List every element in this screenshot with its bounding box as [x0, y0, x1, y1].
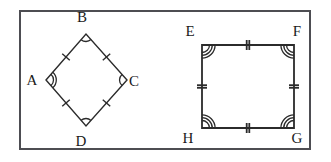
vertex-label-C: C	[129, 73, 139, 89]
vertex-label-B: B	[77, 9, 87, 25]
geometry-figure: ABCDEFGH	[0, 0, 331, 162]
vertex-label-D: D	[76, 133, 87, 149]
vertex-label-H: H	[183, 130, 194, 146]
vertex-label-F: F	[293, 23, 301, 39]
vertex-label-A: A	[27, 72, 38, 88]
vertex-label-E: E	[185, 23, 194, 39]
figure-canvas: ABCDEFGH	[0, 0, 331, 162]
vertex-label-G: G	[292, 130, 303, 146]
